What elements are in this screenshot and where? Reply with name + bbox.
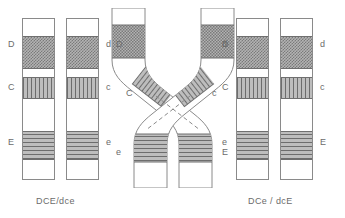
band-c bbox=[67, 77, 98, 99]
locus-label-e-right: e bbox=[222, 138, 227, 147]
locus-label-c-center: c bbox=[212, 89, 217, 98]
locus-label-D-left: D bbox=[8, 40, 15, 49]
haplotype-label-left: DCE/dce bbox=[36, 197, 75, 206]
locus-label-C-right: C bbox=[222, 83, 229, 92]
locus-label-c-right: c bbox=[320, 83, 325, 92]
chromosome-dce bbox=[66, 18, 99, 180]
band-e bbox=[67, 131, 98, 160]
locus-label-E-center: E bbox=[222, 148, 228, 157]
locus-label-D-center: D bbox=[116, 40, 123, 49]
locus-label-C-center: C bbox=[126, 89, 133, 98]
locus-label-E-right: E bbox=[320, 138, 326, 147]
chromosome-dcE bbox=[280, 18, 313, 180]
band-d-center bbox=[199, 25, 237, 58]
chromosome-DCE bbox=[22, 18, 55, 180]
haplotype-label-right: DCe / dcE bbox=[248, 197, 293, 206]
locus-label-e-center: e bbox=[116, 148, 121, 157]
band-C-right bbox=[237, 77, 268, 99]
locus-label-d-right: d bbox=[320, 40, 325, 49]
crossover-chromosomes bbox=[108, 8, 238, 188]
band-d-right bbox=[281, 36, 312, 69]
band-E-center bbox=[130, 134, 170, 162]
band-D bbox=[23, 36, 54, 69]
locus-label-C-left: C bbox=[8, 83, 15, 92]
crossover-figure: D C E d c e DCE/dce bbox=[0, 0, 345, 218]
band-e-right bbox=[237, 131, 268, 160]
chromosome-DCe bbox=[236, 18, 269, 180]
locus-label-D-right: D bbox=[222, 40, 229, 49]
band-e-center bbox=[176, 134, 216, 162]
band-E-right bbox=[281, 131, 312, 160]
band-c-right bbox=[281, 77, 312, 99]
band-d bbox=[67, 36, 98, 69]
locus-label-E-left: E bbox=[8, 138, 14, 147]
band-C bbox=[23, 77, 54, 99]
band-E bbox=[23, 131, 54, 160]
band-D-right bbox=[237, 36, 268, 69]
